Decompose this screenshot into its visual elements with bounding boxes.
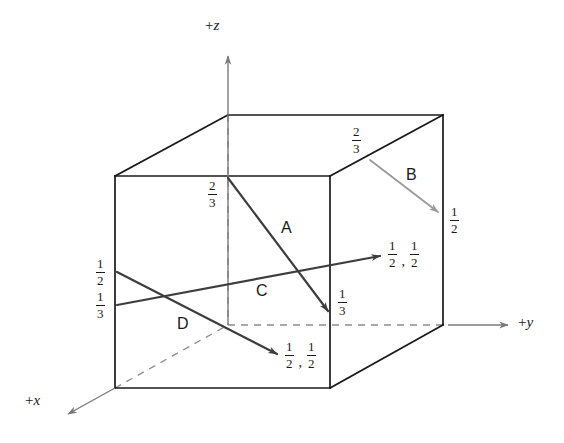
vector-B-arrow	[370, 160, 438, 212]
fraction-numerator: 1	[410, 239, 419, 253]
fraction-pair: 1 2 , 1 2	[388, 240, 419, 270]
edge-bottom-right-diagonal	[330, 325, 443, 388]
x-axis-label: +x	[25, 393, 40, 408]
edge-top-left-diagonal	[115, 115, 228, 176]
vector-A-head-fraction: 1 3	[338, 288, 347, 318]
hidden-edge-bottom-diagonal	[115, 325, 228, 388]
fraction: 1 2	[450, 205, 459, 235]
figure-root: +z +y +x A B C D 2 3 1 3 2 3	[0, 0, 564, 443]
fraction: 1 3	[338, 287, 347, 317]
fraction-numerator: 1	[307, 340, 316, 354]
fraction-numerator: 1	[285, 340, 294, 354]
x-axis-letter: x	[33, 392, 40, 408]
fraction: 1 2	[410, 239, 419, 269]
vector-B-head-fraction: 1 2	[450, 206, 459, 236]
z-axis-label: +z	[205, 18, 219, 33]
vector-A-arrow	[228, 178, 328, 311]
vector-B-label: B	[406, 167, 417, 183]
fraction-numerator: 1	[450, 205, 459, 219]
vector-C-label: C	[256, 283, 268, 299]
fraction-numerator: 2	[352, 125, 361, 139]
fraction-separator: ,	[298, 356, 304, 370]
fraction-denominator: 2	[307, 357, 316, 371]
fraction: 1 3	[96, 290, 105, 320]
fraction-denominator: 2	[450, 222, 459, 236]
fraction-numerator: 1	[96, 257, 105, 271]
z-axis-letter: z	[213, 17, 219, 33]
fraction-denominator: 3	[352, 142, 361, 156]
fraction-numerator: 1	[338, 287, 347, 301]
vector-A-tail-fraction: 2 3	[208, 180, 217, 210]
fraction-pair: 1 2 , 1 2	[285, 341, 316, 371]
y-axis-letter: y	[526, 314, 533, 330]
fraction: 1 2	[388, 239, 397, 269]
y-axis-label: +y	[518, 315, 533, 330]
fraction: 1 2	[96, 257, 105, 287]
vector-D-tail-fraction: 1 2	[96, 258, 105, 288]
vector-D-head-fraction-pair: 1 2 , 1 2	[285, 341, 316, 371]
fraction-separator: ,	[401, 255, 407, 269]
fraction: 2 3	[208, 179, 217, 209]
vector-A-label: A	[281, 220, 292, 236]
fraction-denominator: 2	[388, 256, 397, 270]
fraction: 2 3	[352, 125, 361, 155]
fraction-numerator: 1	[96, 290, 105, 304]
vector-D-label: D	[177, 316, 189, 332]
vector-C-head-fraction-pair: 1 2 , 1 2	[388, 240, 419, 270]
fraction: 1 2	[285, 340, 294, 370]
fraction-numerator: 1	[388, 239, 397, 253]
fraction-denominator: 2	[410, 256, 419, 270]
fraction-denominator: 2	[96, 274, 105, 288]
fraction-denominator: 3	[208, 196, 217, 210]
x-axis-line	[68, 388, 115, 414]
fraction-numerator: 2	[208, 179, 217, 193]
fraction: 1 2	[307, 340, 316, 370]
fraction-denominator: 3	[338, 304, 347, 318]
vector-C-tail-fraction: 1 3	[96, 291, 105, 321]
fraction-denominator: 3	[96, 307, 105, 321]
fraction-denominator: 2	[285, 357, 294, 371]
vector-B-tail-fraction: 2 3	[352, 126, 361, 156]
edge-top-right-diagonal	[330, 115, 443, 176]
